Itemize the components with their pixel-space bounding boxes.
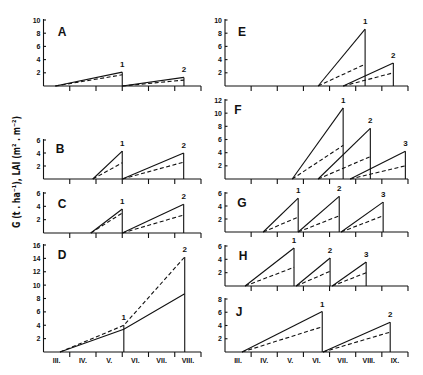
cut-label: 2 [182, 245, 187, 254]
y-tick-label: 4 [37, 203, 41, 210]
solid-series-line [298, 196, 339, 232]
dashed-series-line [296, 271, 330, 286]
cut-label: 2 [181, 141, 186, 150]
panel-f: 24681012F123 [214, 96, 408, 184]
y-tick-label: 6 [218, 43, 222, 50]
y-tick-label: 8 [37, 295, 41, 302]
month-label: III. [234, 357, 242, 364]
cut-label: 1 [296, 186, 301, 195]
y-tick-label: 2 [218, 69, 222, 76]
dashed-series-line [263, 217, 298, 232]
y-tick-label: 6 [37, 137, 41, 144]
panel-letter: H [239, 249, 248, 263]
cut-label: 2 [328, 246, 333, 255]
panel-letter: D [58, 248, 67, 262]
y-tick-label: 10 [33, 282, 41, 289]
dashed-series-line [332, 273, 366, 286]
y-tick-label: 6 [37, 43, 41, 50]
solid-series-line [350, 151, 405, 179]
y-tick-label: 4 [37, 150, 41, 157]
y-tick-label: 6 [218, 190, 222, 197]
dashed-series-line [318, 64, 365, 86]
month-label: VI. [312, 357, 321, 364]
y-tick-label: 2 [218, 269, 222, 276]
y-tick-label: 4 [37, 56, 41, 63]
y-tick-label: 8 [218, 296, 222, 303]
dashed-series-line [323, 332, 390, 352]
panel-d: 246810121416III.IV.V.VI.VII.VIII.D12 [33, 242, 201, 364]
solid-series-line [242, 312, 322, 352]
panel-g: 246G123 [218, 184, 408, 237]
month-label: III. [53, 357, 61, 364]
y-tick-label: 10 [214, 17, 222, 24]
cut-label: 3 [381, 190, 386, 199]
y-tick-label: 4 [218, 149, 222, 156]
dashed-series-line [318, 157, 370, 179]
panel-b: 246B12 [37, 137, 201, 185]
panel-c: 246C12 [37, 190, 201, 239]
cut-label: 2 [368, 116, 373, 125]
dashed-series-line [245, 267, 294, 286]
y-axis-title: G (t . ha⁻¹), LAI (m² . m⁻²) [10, 116, 22, 228]
panel-letter: G [237, 196, 246, 210]
y-tick-label: 4 [37, 322, 41, 329]
month-label: VII. [337, 357, 348, 364]
panel-letter: B [56, 142, 65, 156]
dashed-series-line [122, 215, 183, 233]
y-tick-label: 16 [33, 242, 41, 249]
y-tick-label: 12 [33, 268, 41, 275]
month-label: VIII. [182, 357, 195, 364]
dashed-series-line [122, 162, 183, 179]
solid-series-line [245, 248, 294, 286]
solid-series-line [91, 209, 123, 233]
y-tick-label: 2 [218, 216, 222, 223]
y-tick-label: 2 [37, 163, 41, 170]
panel-letter: A [58, 25, 67, 39]
panel-h: 246H123 [218, 236, 408, 291]
y-tick-label: 6 [37, 308, 41, 315]
y-tick-label: 14 [33, 255, 41, 262]
y-tick-label: 2 [218, 162, 222, 169]
cut-label: 1 [120, 139, 125, 148]
cut-label: 2 [182, 65, 187, 74]
solid-series-line [318, 29, 365, 86]
solid-series-line [318, 128, 370, 179]
cut-label: 2 [391, 51, 396, 60]
solid-series-line [122, 77, 184, 86]
cut-label: 1 [341, 96, 346, 105]
month-label: VI. [131, 357, 140, 364]
y-tick-label: 4 [218, 203, 222, 210]
cut-label: 2 [337, 184, 342, 193]
y-tick-label: 6 [218, 243, 222, 250]
panel-j: 2468III.IV.V.VI.VII.VIII.IX.J12 [218, 296, 408, 364]
y-tick-label: 2 [37, 335, 41, 342]
y-tick-label: 8 [37, 30, 41, 37]
month-label: V. [106, 357, 112, 364]
cut-label: 3 [364, 250, 369, 259]
solid-series-line [263, 198, 298, 232]
month-label: VII. [156, 357, 167, 364]
month-label: VIII. [363, 357, 376, 364]
cut-label: 2 [181, 192, 186, 201]
month-label: IX. [391, 357, 400, 364]
y-tick-label: 12 [214, 97, 222, 104]
y-tick-label: 10 [33, 17, 41, 24]
dashed-series-line [242, 327, 322, 352]
cut-label: 3 [403, 139, 408, 148]
y-tick-label: 6 [218, 309, 222, 316]
y-tick-label: 4 [218, 56, 222, 63]
y-tick-label: 10 [214, 110, 222, 117]
y-tick-label: 2 [37, 69, 41, 76]
solid-series-line [122, 204, 183, 233]
cut-label: 1 [363, 17, 368, 26]
y-tick-label: 6 [37, 190, 41, 197]
panel-a: 246810A12 [33, 17, 201, 92]
cut-label: 1 [320, 300, 325, 309]
cut-label: 2 [388, 310, 393, 319]
solid-series-line [343, 63, 393, 86]
dashed-series-line [350, 166, 405, 179]
solid-series-line [122, 153, 183, 179]
panel-letter: C [58, 197, 67, 211]
cut-label: 1 [122, 313, 127, 322]
panel-e: 246810E12 [214, 17, 408, 92]
